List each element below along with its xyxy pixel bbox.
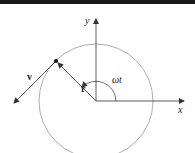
angle-arc [82, 81, 116, 101]
circular-motion-diagram: y x v r ωt [0, 0, 195, 153]
angle-label: ωt [112, 74, 122, 85]
velocity-label: v [27, 71, 32, 82]
particle-point [54, 59, 58, 63]
y-axis-label: y [84, 15, 90, 26]
x-axis-label: x [177, 104, 183, 115]
velocity-vector [14, 61, 56, 103]
radius-label: r [81, 83, 86, 94]
